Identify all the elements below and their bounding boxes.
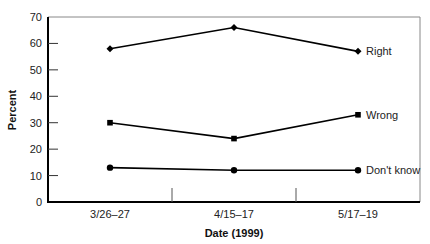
y-tick-label: 20 xyxy=(30,143,42,155)
x-tick-label: 5/17–19 xyxy=(338,208,378,220)
series-line xyxy=(110,115,358,139)
x-axis-title: Date (1999) xyxy=(205,227,264,239)
diamond-marker xyxy=(355,48,362,55)
x-tick-label: 4/15–17 xyxy=(214,208,254,220)
series-don-t-know: Don't know xyxy=(107,164,420,176)
y-tick-label: 10 xyxy=(30,170,42,182)
y-tick-label: 60 xyxy=(30,37,42,49)
series-label: Right xyxy=(366,45,392,57)
circle-marker xyxy=(231,167,237,173)
x-axis: 3/26–274/15–175/17–19 xyxy=(47,188,420,220)
series-group: RightWrongDon't know xyxy=(107,24,421,176)
circle-marker xyxy=(107,164,113,170)
y-tick-label: 0 xyxy=(36,196,42,208)
y-axis: 010203040506070 xyxy=(30,11,58,208)
y-tick-label: 70 xyxy=(30,11,42,23)
x-tick-label: 3/26–27 xyxy=(90,208,130,220)
square-marker xyxy=(355,112,361,118)
series-label: Wrong xyxy=(366,109,398,121)
y-axis-title: Percent xyxy=(6,89,18,130)
square-marker xyxy=(231,136,237,142)
y-tick-label: 50 xyxy=(30,64,42,76)
series-right: Right xyxy=(107,24,392,57)
plot-frame xyxy=(48,17,420,202)
square-marker xyxy=(107,120,113,126)
line-chart: 010203040506070 3/26–274/15–175/17–19 Ri… xyxy=(0,0,430,244)
y-tick-label: 40 xyxy=(30,90,42,102)
series-label: Don't know xyxy=(366,164,420,176)
diamond-marker xyxy=(107,45,114,52)
circle-marker xyxy=(355,167,361,173)
diamond-marker xyxy=(231,24,238,31)
series-wrong: Wrong xyxy=(107,109,398,142)
series-line xyxy=(110,28,358,52)
y-tick-label: 30 xyxy=(30,117,42,129)
